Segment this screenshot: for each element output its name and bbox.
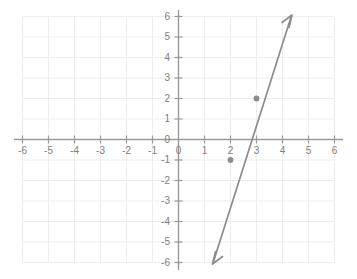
data-point-3-2 — [254, 96, 260, 102]
graph-canvas — [0, 0, 357, 279]
data-point-2--1 — [228, 157, 234, 163]
coordinate-plane-graph: -6 -5 -4 -3 -2 -1 0 1 2 3 4 5 6 6 5 4 3 … — [0, 0, 357, 279]
